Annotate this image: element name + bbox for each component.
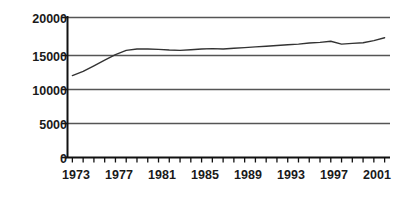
y-tick-label-0: 0 (60, 152, 67, 166)
line-chart: 20000 15000 10000 5000 0 1973 1977 1981 … (0, 0, 408, 198)
plot-background (67, 17, 390, 157)
x-tick-label-2001: 2001 (347, 168, 407, 182)
y-tick-label-15000: 15000 (32, 50, 67, 64)
y-tick-label-10000: 10000 (32, 84, 67, 98)
y-tick-label-5000: 5000 (39, 118, 67, 132)
y-tick-label-20000: 20000 (32, 12, 67, 26)
